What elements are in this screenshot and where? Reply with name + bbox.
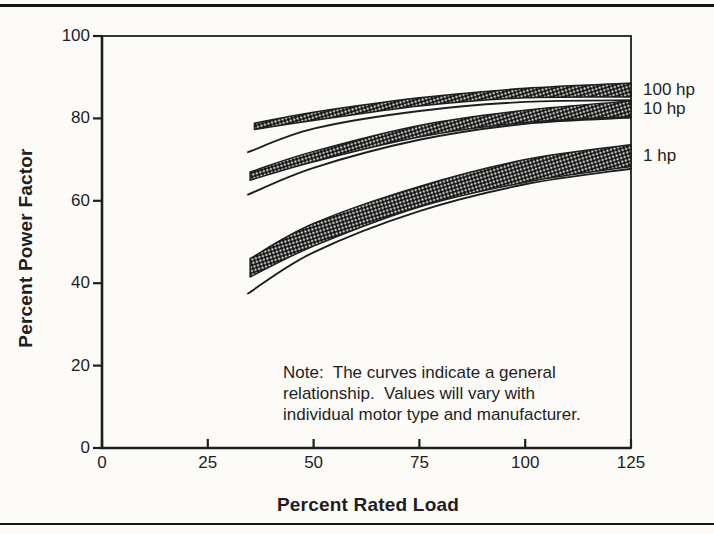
x-tick-label: 0 [70, 454, 134, 472]
figure: Percent Power Factor Percent Rated Load … [0, 0, 714, 534]
y-axis-title: Percent Power Factor [15, 148, 37, 347]
series-label-100hp: 100 hp [643, 80, 695, 100]
x-tick-label: 50 [282, 454, 346, 472]
power-factor-bands [248, 83, 631, 294]
y-tick-label: 80 [36, 109, 90, 127]
x-tick-label: 25 [176, 454, 240, 472]
series-label-10hp: 10 hp [643, 99, 686, 119]
note-line: relationship. Values will vary with [283, 383, 535, 404]
x-tick-label: 75 [387, 454, 451, 472]
y-tick-label: 60 [36, 192, 90, 210]
series-label-1hp: 1 hp [643, 146, 676, 166]
y-tick-label: 20 [36, 357, 90, 375]
note-line: individual motor type and manufacturer. [283, 404, 581, 425]
x-axis-title: Percent Rated Load [277, 494, 459, 516]
x-tick-label: 100 [493, 454, 557, 472]
y-tick-label: 40 [36, 274, 90, 292]
y-tick-label: 100 [36, 27, 90, 45]
x-tick-label: 125 [599, 454, 663, 472]
band-1hp [250, 145, 631, 277]
note-line: Note: The curves indicate a general [283, 362, 556, 383]
